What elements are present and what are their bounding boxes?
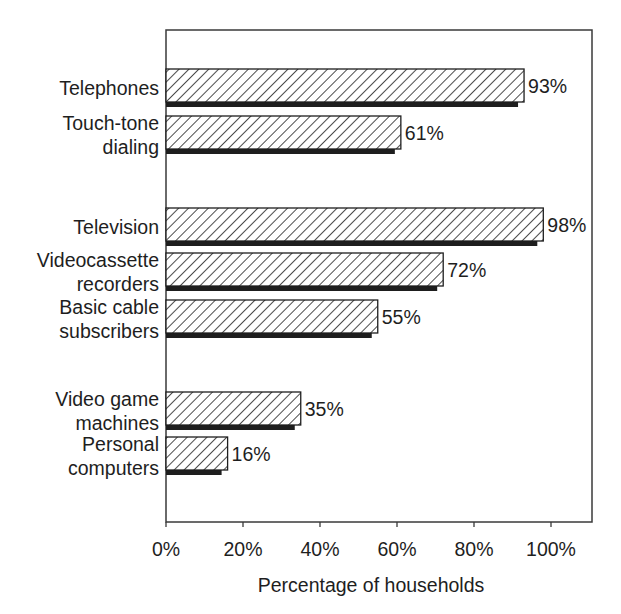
value-label: 35% xyxy=(305,398,344,420)
x-tick-label: 20% xyxy=(223,538,262,560)
bar-basic-cable-subscribers xyxy=(166,300,378,338)
bar-videocassette-recorders xyxy=(166,253,443,291)
bar-telephones xyxy=(166,69,524,107)
bar-touch-tone-dialing xyxy=(166,116,401,154)
category-label: Basic cable xyxy=(59,296,159,318)
bar-fill xyxy=(166,392,301,425)
category-labels: TelephonesTouch-tonedialingTelevisionVid… xyxy=(37,77,159,479)
bar-fill xyxy=(166,208,543,241)
bar-fill xyxy=(166,253,443,286)
value-label: 93% xyxy=(528,75,567,97)
value-label: 61% xyxy=(405,122,444,144)
value-label: 72% xyxy=(447,259,486,281)
chart-title-clipped xyxy=(0,0,621,4)
x-axis-title: Percentage of households xyxy=(258,574,485,596)
category-label: subscribers xyxy=(59,320,159,342)
category-label: Touch-tone xyxy=(63,112,159,134)
x-tick-label: 100% xyxy=(526,538,576,560)
category-label: computers xyxy=(68,457,159,479)
value-label: 55% xyxy=(382,306,421,328)
bar-fill xyxy=(166,69,524,102)
x-tick-label: 0% xyxy=(152,538,180,560)
bar-fill xyxy=(166,437,228,470)
bar-personal-computers xyxy=(166,437,228,475)
category-label: Telephones xyxy=(59,77,159,99)
value-label: 98% xyxy=(547,214,586,236)
category-label: dialing xyxy=(103,136,159,158)
bar-chart: TelephonesTouch-tonedialingTelevisionVid… xyxy=(0,0,621,614)
category-label: Personal xyxy=(82,433,159,455)
category-label: Television xyxy=(73,216,159,238)
bar-video-game-machines xyxy=(166,392,301,430)
bar-fill xyxy=(166,300,378,333)
x-tick-label: 80% xyxy=(454,538,493,560)
value-label: 16% xyxy=(232,443,271,465)
bars-layer xyxy=(166,69,543,475)
x-tick-label: 60% xyxy=(377,538,416,560)
category-label: machines xyxy=(76,412,160,434)
chart-canvas: TelephonesTouch-tonedialingTelevisionVid… xyxy=(0,0,621,614)
x-axis: 0%20%40%60%80%100% xyxy=(152,522,576,560)
category-label: recorders xyxy=(77,273,160,295)
bar-fill xyxy=(166,116,401,149)
category-label: Videocassette xyxy=(37,249,159,271)
x-tick-label: 40% xyxy=(300,538,339,560)
bar-television xyxy=(166,208,543,246)
category-label: Video game xyxy=(55,388,159,410)
